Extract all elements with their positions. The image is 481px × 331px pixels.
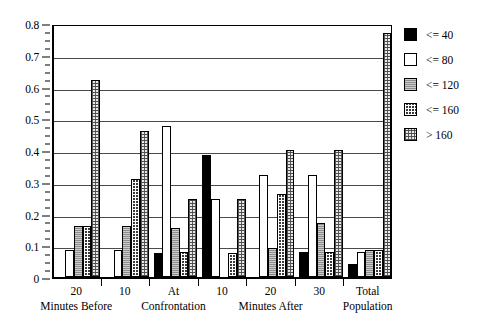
bar: [171, 228, 180, 277]
y-tick-minor: [45, 231, 50, 232]
legend-label: > 160: [426, 129, 453, 141]
legend-swatch-icon: [404, 103, 417, 116]
x-axis-label: 20Minutes After: [238, 284, 302, 314]
bar: [277, 194, 286, 277]
x-axis-label: 10: [216, 284, 228, 299]
x-axis-label-line1: At: [141, 284, 206, 299]
bar: [83, 226, 92, 277]
y-tick-label: 0.2: [25, 210, 39, 222]
y-tick-minor: [45, 48, 50, 49]
bar: [228, 253, 237, 277]
y-tick-minor: [45, 191, 50, 192]
y-tick-minor: [45, 80, 50, 81]
y-tick-minor: [45, 199, 50, 200]
y-tick-minor: [45, 239, 50, 240]
y-tick-minor: [45, 104, 50, 105]
bar-group: [54, 26, 103, 277]
legend: <= 40<= 80<= 120<= 160> 160: [404, 22, 481, 147]
x-axis-label-line1: 20: [40, 284, 112, 299]
y-tick-label: 0.3: [25, 178, 39, 190]
y-tick-label: 0.4: [25, 146, 39, 158]
y-tick-minor: [45, 40, 50, 41]
x-axis-labels: 20Minutes Before10AtConfrontation1020Min…: [0, 284, 481, 331]
y-tick-major: [42, 215, 50, 216]
chart-figure: 0.80.70.60.50.40.30.20.10 20Minutes Befo…: [0, 0, 481, 331]
x-axis-label: 10: [119, 284, 131, 299]
bar: [299, 252, 308, 277]
y-tick-minor: [45, 159, 50, 160]
y-tick-major: [42, 152, 50, 153]
y-tick-minor: [45, 64, 50, 65]
bar: [365, 250, 374, 277]
bar: [131, 179, 140, 277]
legend-swatch-icon: [404, 53, 417, 66]
y-tick-minor: [45, 112, 50, 113]
bar-group: [200, 26, 249, 277]
y-axis: 0.80.70.60.50.40.30.20.10: [0, 25, 50, 279]
bar-group: [103, 26, 152, 277]
bar-group: [297, 26, 346, 277]
y-tick-minor: [45, 72, 50, 73]
bar-group: [248, 26, 297, 277]
legend-label: <= 40: [426, 29, 453, 41]
y-tick-minor: [45, 128, 50, 129]
x-axis-label: 20Minutes Before: [40, 284, 112, 314]
bar: [334, 150, 343, 277]
legend-item[interactable]: > 160: [404, 122, 481, 147]
legend-label: <= 80: [426, 54, 453, 66]
y-tick-major: [42, 279, 50, 280]
bar: [180, 252, 189, 277]
bar: [357, 252, 366, 277]
bar: [154, 253, 163, 277]
bar: [237, 199, 246, 277]
y-tick-minor: [45, 136, 50, 137]
bar: [308, 175, 317, 277]
bar: [122, 226, 131, 277]
bar: [348, 264, 357, 277]
bar: [188, 199, 197, 277]
legend-item[interactable]: <= 160: [404, 97, 481, 122]
y-tick-major: [42, 247, 50, 248]
legend-label: <= 160: [426, 104, 459, 116]
y-tick-label: 0.7: [25, 51, 39, 63]
bar: [259, 175, 268, 277]
x-axis-label-line1: 20: [238, 284, 302, 299]
bar: [325, 252, 334, 277]
legend-item[interactable]: <= 120: [404, 72, 481, 97]
bar: [317, 223, 326, 277]
bar: [114, 250, 123, 277]
y-tick-minor: [45, 207, 50, 208]
y-tick-label: 0.1: [25, 241, 39, 253]
x-axis-label: TotalPopulation: [343, 284, 393, 314]
x-axis-label-line2: Minutes After: [238, 299, 302, 314]
bar: [74, 226, 83, 277]
legend-item[interactable]: <= 80: [404, 47, 481, 72]
y-tick-minor: [45, 167, 50, 168]
legend-swatch-icon: [404, 78, 417, 91]
x-axis-label-line2: Population: [343, 299, 393, 314]
legend-item[interactable]: <= 40: [404, 22, 481, 47]
y-tick-minor: [45, 223, 50, 224]
x-axis-label-line1: 10: [119, 284, 131, 299]
y-tick-minor: [45, 96, 50, 97]
y-tick-major: [42, 56, 50, 57]
y-tick-label: 0.6: [25, 83, 39, 95]
x-axis-label: 30: [313, 284, 325, 299]
bar: [211, 199, 220, 277]
bar: [140, 131, 149, 277]
y-tick-minor: [45, 175, 50, 176]
bar-group: [151, 26, 200, 277]
y-tick-label: 0.5: [25, 114, 39, 126]
y-tick-major: [42, 120, 50, 121]
x-axis-label: AtConfrontation: [141, 284, 206, 314]
bars-layer: [54, 26, 391, 277]
y-tick-major: [42, 88, 50, 89]
bar: [286, 150, 295, 277]
plot-area: [52, 25, 392, 279]
legend-swatch-icon: [404, 28, 417, 41]
bar: [65, 250, 74, 277]
x-axis-label-line2: Minutes Before: [40, 299, 112, 314]
bar: [374, 250, 383, 277]
bar-group: [345, 26, 394, 277]
x-axis-label-line1: 10: [216, 284, 228, 299]
